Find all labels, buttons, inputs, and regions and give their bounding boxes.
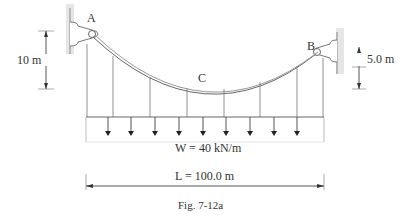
arrow-down-icon [105, 117, 111, 136]
cable [93, 35, 318, 94]
figure-caption: Fig. 7-12a [178, 200, 223, 211]
point-label-a: A [87, 12, 96, 24]
load-label: W = 40 kN/m [175, 142, 241, 154]
point-label-c: C [198, 72, 206, 84]
span-label: L = 100.0 m [175, 170, 234, 182]
arrow-down-icon [152, 117, 158, 136]
load-arrows [105, 117, 300, 136]
right-height-label: 5.0 m [367, 53, 394, 65]
point-label-b: B [307, 40, 315, 52]
cable-diagram [0, 0, 409, 222]
arrow-down-icon [271, 117, 277, 136]
arrow-down-icon [128, 117, 134, 136]
arrow-down-icon [294, 117, 300, 136]
arrow-down-icon [176, 117, 182, 136]
arrow-down-icon [247, 117, 253, 136]
support-b [314, 28, 345, 74]
arrow-down-icon [200, 117, 206, 136]
left-height-label: 10 m [17, 54, 41, 66]
dimension-right-height [352, 47, 366, 89]
pin-a-icon [89, 31, 96, 38]
arrow-down-icon [223, 117, 229, 136]
